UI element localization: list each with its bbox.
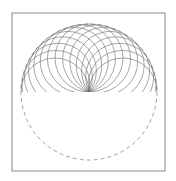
inner-arc bbox=[63, 25, 131, 93]
inner-arc bbox=[55, 24, 123, 92]
inner-arc bbox=[70, 27, 138, 95]
inner-arc bbox=[40, 27, 108, 95]
inner-arc bbox=[88, 50, 156, 118]
inner-arc bbox=[47, 25, 115, 93]
inner-arc-family bbox=[21, 24, 157, 126]
inner-arc bbox=[21, 58, 89, 126]
inner-arc bbox=[89, 58, 157, 126]
inner-arc bbox=[22, 50, 90, 118]
circle-family-diagram bbox=[0, 0, 176, 181]
inner-arc bbox=[34, 31, 102, 99]
inner-arc bbox=[76, 31, 144, 99]
